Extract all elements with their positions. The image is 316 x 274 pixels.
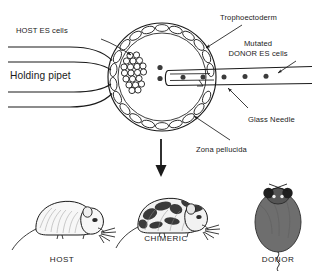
chimeric-eye: [196, 215, 201, 219]
label-mutated-donor-line2: DONOR ES cells: [228, 49, 287, 58]
blastocyst-injection-figure: HOST ES cells Holding pipet Trophoectode…: [0, 0, 316, 274]
label-glass-needle: Glass Needle: [248, 115, 295, 124]
blastocyst-group: [108, 23, 216, 131]
label-mutated-donor-line1: Mutated: [244, 39, 272, 48]
donor-eye-left: [272, 195, 275, 198]
host-ear: [83, 207, 92, 217]
free-donor-cells-in-blastocoel: [157, 65, 162, 81]
chimeric-whiskers: [203, 225, 220, 240]
label-host-es-cells: HOST ES cells: [16, 26, 68, 35]
chimeric-ear: [186, 204, 195, 214]
mouse-host: HOST: [12, 201, 116, 264]
label-mouse-host: HOST: [50, 255, 74, 264]
host-eye: [92, 218, 97, 222]
glass-needle: [165, 67, 312, 87]
mouse-donor: DONOR: [255, 184, 301, 271]
leader-glass-needle: [228, 88, 248, 108]
mouse-chimeric: CHIMERIC: [116, 197, 220, 248]
host-whiskers: [99, 228, 116, 243]
host-es-cell-cluster: [121, 52, 147, 94]
chimeric-tail: [116, 227, 138, 248]
label-holding-pipet: Holding pipet: [10, 70, 71, 81]
label-mouse-chimeric: CHIMERIC: [144, 234, 188, 243]
down-arrow-icon: [156, 139, 167, 177]
donor-eye-right: [280, 195, 283, 198]
host-tail: [12, 229, 36, 250]
label-mouse-donor: DONOR: [262, 255, 294, 264]
label-trophoectoderm: Trophoectoderm: [220, 13, 277, 22]
diagram-canvas: HOST ES cells Holding pipet Trophoectode…: [0, 0, 316, 274]
leader-trophoectoderm: [206, 25, 242, 48]
label-zona-pellucida: Zona pellucida: [196, 145, 247, 154]
host-feet: [57, 235, 84, 239]
leader-zona-pellucida: [194, 116, 230, 140]
donor-es-cells-in-needle: [181, 74, 269, 80]
